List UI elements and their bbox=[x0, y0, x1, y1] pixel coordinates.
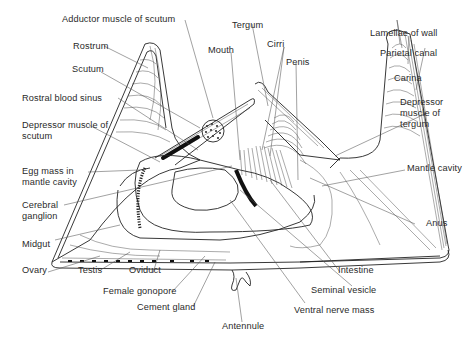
label-mouth: Mouth bbox=[208, 45, 234, 56]
label-penis: Penis bbox=[286, 57, 309, 68]
barnacle-anatomy-diagram: Adductor muscle of scutum Tergum Rostrum… bbox=[0, 0, 475, 342]
label-depressor-muscle-of-tergum: Depressor muscle of tergum bbox=[400, 97, 455, 130]
label-egg-mass-in-mantle-cavity: Egg mass in mantle cavity bbox=[22, 166, 92, 188]
depressor-muscle-bar bbox=[163, 137, 198, 158]
label-oviduct: Oviduct bbox=[129, 265, 161, 276]
label-parietal-canal: Parietal canal bbox=[380, 48, 437, 59]
label-adductor-muscle-of-scutum: Adductor muscle of scutum bbox=[62, 14, 175, 25]
label-intestine: Intestine bbox=[338, 265, 374, 276]
label-ventral-nerve-mass: Ventral nerve mass bbox=[294, 305, 374, 316]
label-cirri: Cirri bbox=[267, 39, 284, 50]
adductor-muscle-shape bbox=[202, 120, 224, 142]
body-outline bbox=[70, 155, 332, 256]
label-cement-gland: Cement gland bbox=[137, 302, 195, 313]
label-lamellae-of-wall: Lamellae of wall bbox=[370, 28, 437, 39]
base-plate bbox=[52, 250, 449, 290]
label-ovary: Ovary bbox=[22, 265, 47, 276]
label-testis: Testis bbox=[78, 265, 102, 276]
label-cerebral-ganglion: Cerebral ganglion bbox=[22, 200, 70, 222]
rostrum-plate bbox=[52, 43, 200, 262]
label-scutum: Scutum bbox=[72, 64, 104, 75]
label-seminal-vesicle: Seminal vesicle bbox=[311, 285, 376, 296]
label-midgut: Midgut bbox=[22, 239, 50, 250]
label-female-gonopore: Female gonopore bbox=[103, 286, 177, 297]
label-tergum: Tergum bbox=[232, 20, 263, 31]
label-mantle-cavity: Mantle cavity bbox=[407, 163, 462, 174]
label-carina: Carina bbox=[394, 73, 422, 84]
opercular-plates bbox=[155, 82, 340, 165]
label-antennule: Antennule bbox=[222, 321, 264, 332]
label-rostrum: Rostrum bbox=[73, 41, 108, 52]
label-rostral-blood-sinus: Rostral blood sinus bbox=[22, 93, 102, 104]
label-anus: Anus bbox=[426, 218, 447, 229]
label-depressor-muscle-of-scutum: Depressor muscle of scutum bbox=[22, 120, 112, 142]
